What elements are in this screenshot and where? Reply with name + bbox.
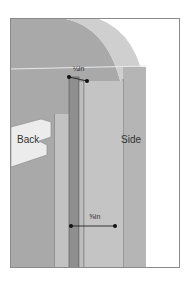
top-dimension-label: ¼in [73,65,84,72]
dimension-dot [85,79,89,83]
dimension-dot [113,224,117,228]
diagram-frame: ¼in ⅝in Back Side [10,18,180,268]
side-label: Side [121,135,141,145]
back-label: Back [17,135,39,145]
shelf-face [84,81,123,268]
dimension-dot [69,224,73,228]
groove-strip [69,77,79,268]
groove-edge [79,81,84,268]
bottom-dimension-label: ⅝in [89,213,100,220]
panel-light-band [55,114,69,268]
dimension-dot [67,75,71,79]
side-face-shape [123,67,146,268]
